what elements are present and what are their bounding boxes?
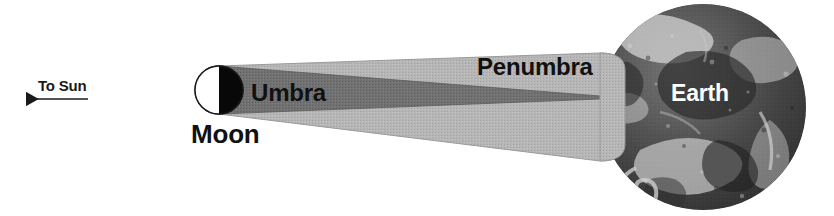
eclipse-diagram: To Sun Moon Umbra Penumbra Earth bbox=[0, 0, 834, 216]
label-penumbra: Penumbra bbox=[477, 55, 593, 79]
label-earth: Earth bbox=[671, 82, 729, 105]
label-to-sun: To Sun bbox=[38, 78, 87, 93]
label-moon: Moon bbox=[191, 121, 260, 147]
scene-graphic bbox=[0, 0, 834, 216]
earth-surface-detail bbox=[600, 4, 806, 210]
label-umbra: Umbra bbox=[251, 81, 326, 105]
penumbra-earth-cap bbox=[600, 53, 625, 161]
earth-body bbox=[600, 4, 806, 210]
